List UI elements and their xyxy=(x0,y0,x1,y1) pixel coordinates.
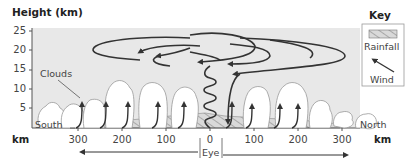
y-tick-5: 5 xyxy=(2,102,26,113)
x-tick-0: 0 xyxy=(195,134,225,145)
key-wind-label: Wind xyxy=(370,74,394,85)
clouds-label: Clouds xyxy=(40,68,72,79)
key-rainfall-label: Rainfall xyxy=(364,41,399,52)
south-label: South xyxy=(35,119,63,130)
x-tick-left-200: 200 xyxy=(107,134,137,145)
x-unit-left: km xyxy=(12,134,29,145)
y-tick-20: 20 xyxy=(2,44,26,55)
x-unit-right: km xyxy=(374,134,391,145)
x-tick-right-100: 100 xyxy=(239,134,269,145)
y-tick-25: 25 xyxy=(2,25,26,36)
rainfall-swatch xyxy=(369,30,397,38)
x-tick-right-300: 300 xyxy=(327,134,357,145)
x-tick-right-200: 200 xyxy=(283,134,313,145)
x-tick-left-300: 300 xyxy=(63,134,93,145)
y-tick-10: 10 xyxy=(2,83,26,94)
x-tick-left-100: 100 xyxy=(151,134,181,145)
north-label: North xyxy=(360,119,387,130)
eye-label: Eye xyxy=(202,147,219,158)
y-tick-15: 15 xyxy=(2,63,26,74)
